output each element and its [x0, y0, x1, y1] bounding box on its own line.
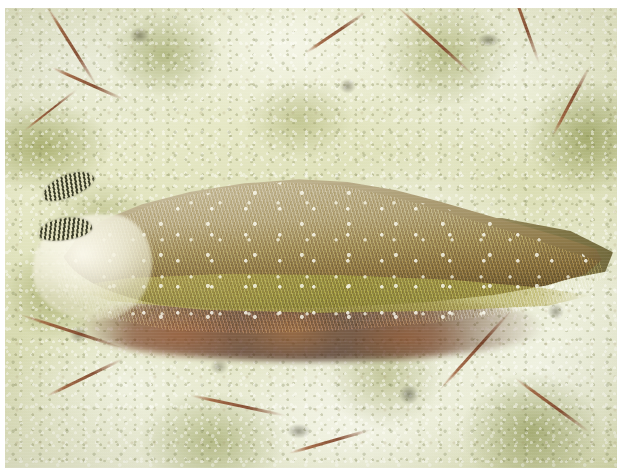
photo-frame: sea slug (sea hare / sacoglossan) on cor…	[0, 0, 620, 468]
sea-slug	[33, 174, 602, 344]
photograph	[5, 8, 617, 468]
